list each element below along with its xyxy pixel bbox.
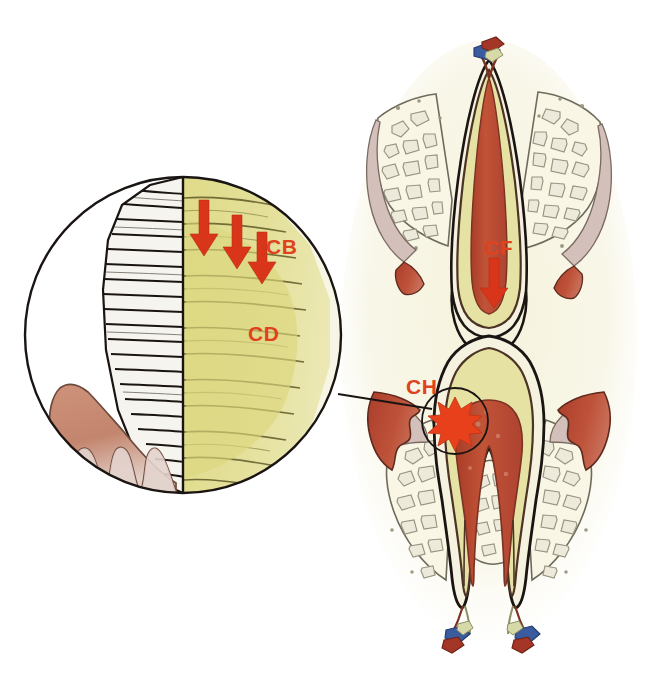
label-cb: CB <box>266 235 297 258</box>
label-cd: CD <box>248 322 279 345</box>
label-ch: CH <box>406 375 437 398</box>
dental-illustration-figure: CB CD CF CH <box>0 0 656 674</box>
label-cf: CF <box>484 236 513 259</box>
dental-illustration-svg: CB CD CF CH <box>0 0 656 674</box>
